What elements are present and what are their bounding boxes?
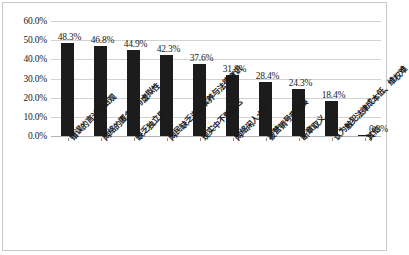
x-axis-tickmark [233,138,234,141]
y-axis-tick-label: 50.0% [23,35,47,45]
bar-value-label: 18.4% [322,90,346,100]
bar-value-label: 46.8% [91,35,115,45]
gridline [51,21,381,22]
bar[interactable] [94,46,107,136]
y-axis-tick-label: 20.0% [23,93,47,103]
x-axis-tickmark [134,138,135,141]
bar-value-label: 44.9% [124,39,148,49]
y-axis-tick-label: 60.0% [23,16,47,26]
y-axis-tick-label: 30.0% [23,74,47,84]
x-axis-tickmark [332,138,333,141]
bar[interactable] [61,43,74,136]
chart-container: 0.0%10.0%20.0%30.0%40.0%50.0%60.0% 48.3%… [2,2,387,251]
bar-value-label: 24.3% [289,78,313,88]
y-axis-tick-label: 0.0% [28,131,47,141]
x-axis-tickmark [266,138,267,141]
x-axis-tickmark [101,138,102,141]
y-axis-tick-label: 10.0% [23,112,47,122]
y-axis-tick-label: 40.0% [23,54,47,64]
bar-value-label: 28.4% [256,71,280,81]
bar-value-label: 37.6% [190,53,214,63]
x-axis-tickmark [299,138,300,141]
x-axis-tickmark [365,138,366,141]
x-axis-tickmark [167,138,168,141]
bar[interactable] [160,55,173,136]
bar-value-label: 42.3% [157,44,181,54]
bar-value-label: 48.3% [58,32,82,42]
x-axis-tickmark [68,138,69,141]
x-axis-category-labels: 错误的言论自由观网络的匿名性与虚拟性缺乏独立思考网民缺乏道德素养与法律意识现实中… [51,138,381,248]
x-axis-tickmark [200,138,201,141]
